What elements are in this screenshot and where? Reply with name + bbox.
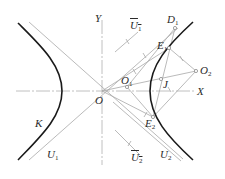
hyperbola-diagram [0, 0, 225, 179]
label-u2: U2 [160, 149, 171, 162]
label-e2: E2 [145, 118, 155, 131]
label-e1: E1 [157, 40, 167, 53]
label-u1-bar: U1 [130, 20, 141, 33]
label-curve-k: K [35, 118, 42, 129]
label-x-axis: X [197, 86, 204, 97]
label-d1: D1 [167, 14, 178, 27]
point-o2 [194, 69, 197, 72]
label-origin: O [95, 95, 103, 106]
line-u1bar [115, 32, 138, 52]
label-j: J [163, 79, 168, 90]
label-o2: O2 [200, 65, 211, 78]
line-o-e2 [102, 91, 153, 117]
label-o1: O1 [121, 75, 132, 88]
asymptote-2 [29, 28, 178, 160]
label-u1: U1 [47, 149, 58, 162]
hyperbola-left-branch [18, 23, 62, 160]
label-u2-bar: U2 [131, 152, 142, 165]
line-e1-o [102, 48, 169, 91]
point-e1 [167, 46, 170, 49]
label-y-axis: Y [95, 13, 101, 24]
line-o-o2 [102, 71, 196, 91]
